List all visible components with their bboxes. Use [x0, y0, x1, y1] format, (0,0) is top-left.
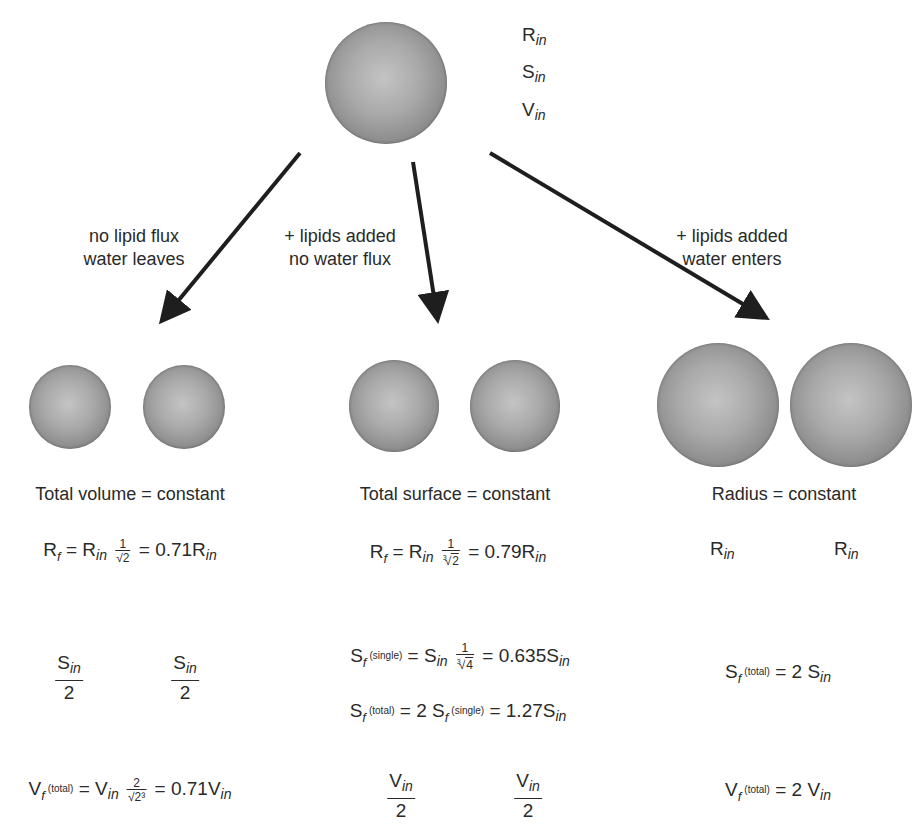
initial-volume-label: Vin: [522, 99, 546, 126]
right-radius-label-1: Rin: [710, 538, 735, 565]
middle-vesicle-1: [349, 360, 439, 452]
arrow-middle-label: + lipids addedno water flux: [284, 225, 396, 271]
arrow-left-label: no lipid fluxwater leaves: [83, 225, 184, 271]
right-radius-label-2: Rin: [834, 538, 859, 565]
left-vesicle-2: [143, 365, 225, 449]
right-surface-total-equation: Sf(total) = 2 Sin: [725, 661, 831, 690]
left-volume-equation: Vf(total) = Vin 2√2³ = 0.71Vin: [29, 777, 232, 807]
initial-vesicle: [325, 22, 447, 144]
right-volume-total-equation: Vf(total) = 2 Vin: [725, 779, 831, 808]
left-surface-fraction-1: Sin2: [55, 652, 83, 704]
left-vesicle-1: [29, 365, 111, 449]
left-radius-equation: Rf = Rin 1√2 = 0.71Rin: [43, 538, 217, 568]
right-title: Radius = constant: [712, 483, 857, 505]
arrow-middle: [413, 162, 437, 316]
middle-title: Total surface = constant: [360, 483, 551, 505]
left-surface-fraction-2: Sin2: [171, 652, 199, 704]
middle-radius-equation: Rf = Rin 13√2 = 0.79Rin: [370, 538, 546, 570]
arrow-right-label: + lipids addedwater enters: [676, 225, 788, 271]
middle-surface-total-equation: Sf(total) = 2 Sf(single) = 1.27Sin: [350, 700, 567, 729]
right-vesicle-1: [657, 343, 779, 467]
initial-surface-label: Sin: [522, 61, 546, 88]
middle-volume-fraction-2: Vin2: [514, 770, 542, 822]
middle-volume-fraction-1: Vin2: [387, 770, 415, 822]
initial-radius-label: Rin: [522, 24, 547, 51]
right-vesicle-2: [790, 343, 912, 467]
middle-surface-single-equation: Sf(single) = Sin 13√4 = 0.635Sin: [350, 642, 570, 674]
left-title: Total volume = constant: [35, 483, 225, 505]
middle-vesicle-2: [470, 360, 560, 452]
